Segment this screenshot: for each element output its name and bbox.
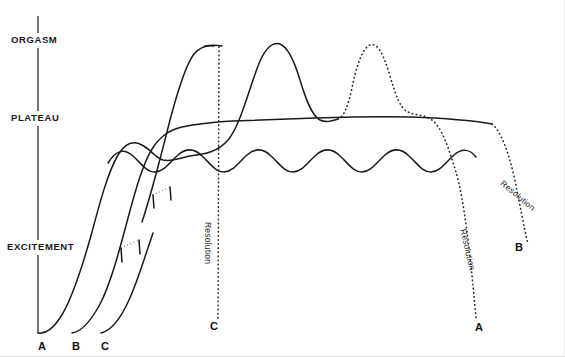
curve-c-crest [205,45,222,46]
sexual-response-cycle-figure: ORGASM PLATEAU EXCITEMENT A B C C A B Re… [0,0,565,357]
phase-label-plateau: PLATEAU [8,112,62,123]
curve-a-dotted [338,45,476,318]
phase-label-orgasm: ORGASM [8,34,60,45]
curve-a-solid [38,44,338,334]
curve-c-resolution-dotted [218,47,219,320]
curve-b-end-letter: B [515,241,523,253]
curve-c-end-letter: C [210,320,218,332]
phase-label-excitement: EXCITEMENT [4,241,77,252]
resolution-label-c: Resolution [203,222,213,264]
curve-c-notch-upper-stem [153,187,171,208]
curve-b-solid [72,117,492,333]
curve-b-start-letter: B [72,340,80,352]
curve-a-start-letter: A [38,340,46,352]
curve-c-notch-lower [121,240,139,248]
curve-c-notch-upper [153,187,170,195]
curve-a-end-letter: A [475,321,483,333]
response-curves-svg [0,0,565,357]
curve-b-plateau-waves [108,150,476,172]
curve-c-start-letter: C [101,340,109,352]
